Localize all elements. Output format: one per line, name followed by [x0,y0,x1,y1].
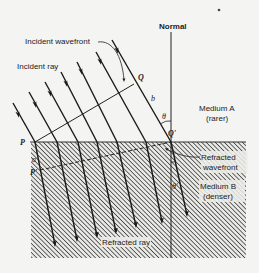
medium-a-desc: (rarer) [206,114,229,123]
incident-ray-label: Incident ray [17,62,58,71]
point-p-label: P [20,138,25,147]
point-q-prime-label: Q' [168,129,177,138]
segment-b-label: b [151,94,155,103]
refracted-wavefront-label-1: Refracted [201,153,236,162]
angle-theta-label: θ [162,112,166,121]
incident-rays [13,40,171,142]
normal-label: Normal [159,22,187,31]
medium-b-desc: (denser) [203,192,233,201]
point-p-prime-label: P' [30,168,38,177]
segment-a-label: a [32,155,36,164]
incident-wavefront-label: Incident wavefront [25,37,91,46]
medium-b-name: Medium B [200,182,236,191]
angle-theta-arc [160,121,171,124]
incident-wavefront-leader [98,42,124,80]
refracted-ray-label: Refracted ray [102,238,150,247]
angle-theta-prime-label: θ' [172,182,178,191]
speck-mark [218,9,221,12]
refraction-diagram: Normal Incident wavefront Incident ray Q… [0,0,259,273]
refracted-wavefront-label-2: wavefront [202,163,238,172]
incident-ray-arrows [15,47,118,117]
medium-a-name: Medium A [199,104,235,113]
point-q-label: Q [138,73,144,82]
